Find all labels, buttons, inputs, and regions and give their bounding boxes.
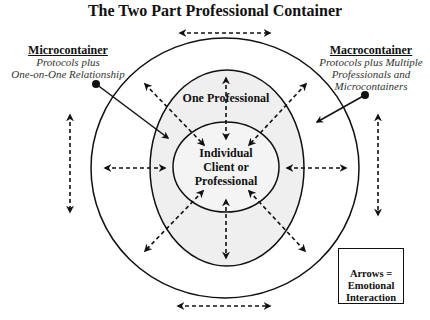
microcontainer-line1: Protocols plus bbox=[8, 56, 128, 68]
microcontainer-dot bbox=[92, 80, 100, 88]
diagram-title: The Two Part Professional Container bbox=[0, 2, 430, 20]
one-professional-label: One Professional bbox=[176, 91, 276, 105]
macrocontainer-heading: Macrocontainer bbox=[315, 44, 427, 56]
macrocontainer-dot bbox=[361, 91, 369, 99]
microcontainer-label: Microcontainer Protocols plus One-on-One… bbox=[8, 44, 128, 80]
legend-text: Arrows = Emotional Interaction bbox=[339, 268, 403, 304]
legend-line1: Arrows = bbox=[339, 268, 403, 280]
legend-box: Arrows = Emotional Interaction bbox=[338, 248, 404, 304]
microcontainer-line2: One-on-One Relationship bbox=[8, 68, 128, 80]
individual-label: Individual Client or Professional bbox=[181, 146, 271, 188]
individual-line2: Client or bbox=[181, 160, 271, 174]
macrocontainer-line2: Professionals and bbox=[315, 68, 427, 80]
individual-line1: Individual bbox=[181, 146, 271, 160]
individual-line3: Professional bbox=[181, 174, 271, 188]
macrocontainer-line1: Protocols plus Multiple bbox=[315, 56, 427, 68]
microcontainer-heading: Microcontainer bbox=[8, 44, 128, 56]
legend-line2: Emotional bbox=[339, 280, 403, 292]
macrocontainer-line3: Microcontainers bbox=[315, 80, 427, 92]
legend-line3: Interaction bbox=[339, 292, 403, 304]
macrocontainer-label: Macrocontainer Protocols plus Multiple P… bbox=[315, 44, 427, 92]
